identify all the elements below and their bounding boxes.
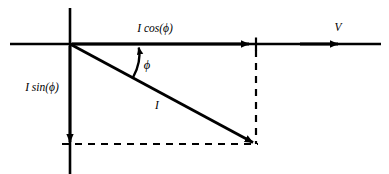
label-i-cos-phi: I cos(ϕ)	[136, 22, 173, 35]
phasor-diagram-figure: I cos(ϕ) I sin(ϕ) ϕ I V	[0, 0, 389, 174]
phasor-diagram-canvas: I cos(ϕ) I sin(ϕ) ϕ I V	[0, 0, 389, 174]
label-phase-angle: ϕ	[144, 58, 151, 72]
label-i-sin-phi: I sin(ϕ)	[24, 81, 59, 94]
